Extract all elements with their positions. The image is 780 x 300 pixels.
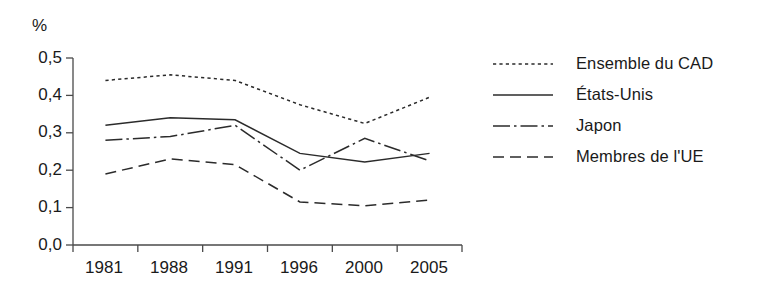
y-axis-ticks: [66, 58, 73, 245]
y-axis-unit-label: %: [32, 16, 47, 36]
legend-label-1: États-Unis: [576, 85, 653, 104]
x-tick-label-1: 1988: [134, 258, 204, 278]
plot-svg: [0, 0, 500, 300]
series-line-japon: [105, 125, 429, 170]
data-series-group: [105, 75, 429, 206]
series-line-ensemble-du-cad: [105, 75, 429, 124]
legend-label-2: Japon: [576, 116, 621, 135]
y-tick-label-1: 0,4: [18, 85, 62, 105]
chart-figure: % 0,5 0,4 0,3 0,2 0,1 0,0 1981 1988 1991…: [0, 0, 780, 300]
legend-label-0: Ensemble du CAD: [576, 54, 713, 73]
legend-item-membres-de-l-ue: Membres de l'UE: [492, 141, 780, 172]
axes: [66, 58, 462, 252]
legend-swatch-dashed-icon: [492, 151, 554, 163]
x-tick-label-5: 2005: [394, 258, 464, 278]
x-tick-label-4: 2000: [329, 258, 399, 278]
series-line-membres-de-l-ue: [105, 159, 429, 206]
plot-area: % 0,5 0,4 0,3 0,2 0,1 0,0 1981 1988 1991…: [0, 0, 500, 300]
legend-swatch-dotted-icon: [492, 58, 554, 70]
chart-legend: Ensemble du CAD États-Unis Japon Membres…: [492, 48, 780, 188]
legend-swatch-solid-icon: [492, 89, 554, 101]
y-tick-label-0: 0,5: [18, 48, 62, 68]
x-axis-ticks: [73, 245, 462, 252]
y-tick-label-5: 0,0: [18, 235, 62, 255]
x-tick-label-3: 1996: [264, 258, 334, 278]
legend-swatch-dashdot-icon: [492, 120, 554, 132]
legend-item-japon: Japon: [492, 110, 780, 141]
series-line-tats-unis: [105, 118, 429, 162]
y-tick-label-2: 0,3: [18, 122, 62, 142]
y-tick-label-4: 0,1: [18, 197, 62, 217]
y-tick-label-3: 0,2: [18, 160, 62, 180]
x-tick-label-2: 1991: [199, 258, 269, 278]
legend-label-3: Membres de l'UE: [576, 147, 704, 166]
legend-item-ensemble-du-cad: Ensemble du CAD: [492, 48, 780, 79]
legend-item-etats-unis: États-Unis: [492, 79, 780, 110]
x-tick-label-0: 1981: [69, 258, 139, 278]
